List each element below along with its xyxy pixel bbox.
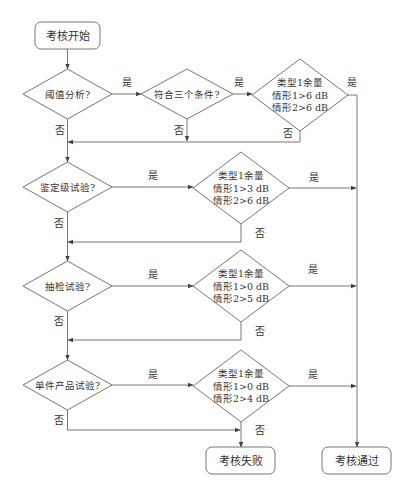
single-product-label: 单件产品试验?	[35, 380, 100, 391]
cond3-line2: 情形1>0 dB	[213, 281, 269, 292]
threshold-decision: 阈值分析?	[23, 69, 112, 119]
single-product-decision: 单件产品试验?	[23, 360, 112, 410]
yes-label: 是	[308, 369, 318, 380]
cond1-line3: 情形2>6 dB	[272, 102, 328, 113]
yes-label: 是	[122, 77, 132, 88]
cond1-line1: 类型1余量	[277, 77, 323, 88]
yes-label: 是	[308, 264, 318, 275]
cond3-line1: 类型1余量	[218, 268, 264, 279]
no-label: 否	[255, 228, 265, 239]
three-conditions-decision: 符合三个条件?	[141, 69, 233, 119]
cond4-line2: 情形1>0 dB	[213, 381, 269, 392]
sampling-label: 抽检试验?	[45, 281, 90, 292]
cond4-decision: 类型1余量 情形1>0 dB 情形2>4 dB	[193, 350, 289, 422]
no-label: 否	[255, 326, 265, 337]
no-label: 否	[283, 128, 293, 139]
qualification-decision: 鉴定级试验?	[23, 162, 112, 212]
cond2-line2: 情形1>3 dB	[213, 183, 269, 194]
no-label: 否	[255, 425, 265, 436]
no-label: 否	[54, 316, 64, 327]
cond3-line3: 情形2>5 dB	[213, 293, 269, 304]
yes-label: 是	[148, 369, 158, 380]
no-label: 否	[174, 125, 184, 136]
cond2-line1: 类型1余量	[218, 170, 264, 181]
edge-cond1-no	[68, 131, 300, 142]
flowchart-canvas: 考核开始 阈值分析? 是 否 符合三个条件? 是 否 类型1余量 情形1>6 d…	[0, 0, 409, 487]
yes-label: 是	[234, 77, 244, 88]
three-conditions-label: 符合三个条件?	[154, 89, 219, 100]
cond2-decision: 类型1余量 情形1>3 dB 情形2>6 dB	[193, 152, 289, 224]
fail-node: 考核失败	[206, 447, 275, 474]
yes-label: 是	[347, 77, 357, 88]
cond4-line3: 情形2>4 dB	[213, 393, 269, 404]
edge-single-product-no	[68, 410, 241, 430]
yes-label: 是	[309, 172, 319, 183]
edge-to-pass-trunk	[348, 95, 357, 447]
start-label: 考核开始	[46, 29, 90, 43]
yes-label: 是	[148, 170, 158, 181]
no-label: 否	[54, 415, 64, 426]
cond2-line3: 情形2>6 dB	[213, 195, 269, 206]
no-label: 否	[55, 125, 65, 136]
fail-label: 考核失败	[219, 454, 263, 468]
cond4-line1: 类型1余量	[218, 368, 264, 379]
threshold-label: 阈值分析?	[45, 89, 90, 100]
pass-node: 考核通过	[322, 447, 391, 474]
pass-label: 考核通过	[335, 454, 379, 468]
yes-label: 是	[148, 269, 158, 280]
cond1-line2: 情形1>6 dB	[272, 90, 328, 101]
cond3-decision: 类型1余量 情形1>0 dB 情形2>5 dB	[193, 250, 289, 322]
start-node: 考核开始	[35, 22, 100, 49]
no-label: 否	[54, 218, 64, 229]
qualification-label: 鉴定级试验?	[40, 182, 95, 193]
sampling-decision: 抽检试验?	[23, 261, 112, 311]
edge-cond3-no	[68, 322, 241, 340]
edge-cond2-no	[68, 224, 241, 242]
cond1-decision: 类型1余量 情形1>6 dB 情形2>6 dB	[252, 59, 348, 131]
